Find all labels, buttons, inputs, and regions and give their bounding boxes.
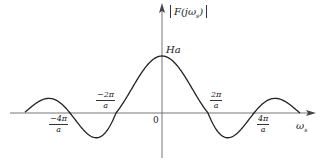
x-axis-label: ωs: [296, 121, 307, 133]
tick-label-neg-2pi: −2πa: [96, 91, 115, 110]
tick-label-4pi: 4πa: [257, 115, 269, 134]
y-axis-label: F(jωs): [170, 7, 207, 19]
tick-label-neg-4pi: −4πa: [49, 115, 68, 134]
spectrum-diagram: [0, 0, 322, 160]
peak-label: Ha: [166, 45, 181, 55]
tick-label-2pi: 2πa: [210, 91, 222, 110]
origin-label: 0: [153, 116, 159, 125]
